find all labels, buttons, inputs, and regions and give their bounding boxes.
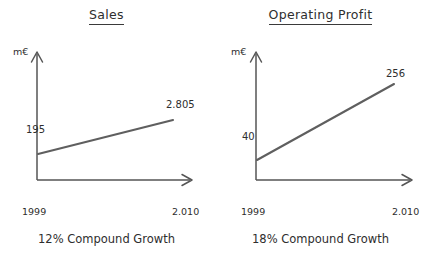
start-value-label-operating-profit: 40 (242, 131, 255, 142)
x-tick-label-start-operating-profit: 1999 (241, 206, 265, 217)
y-axis-unit-sales: m€ (13, 46, 28, 57)
x-tick-label-end-sales: 2.010 (172, 206, 199, 217)
chart-panel-sales: Sales m€ 195 2.805 1999 2.010 12% Compou… (0, 0, 213, 264)
end-value-label-sales: 2.805 (166, 99, 195, 110)
figure-canvas: Sales m€ 195 2.805 1999 2.010 12% Compou… (0, 0, 427, 264)
x-tick-label-start-sales: 1999 (22, 206, 46, 217)
data-line-operating-profit (257, 84, 394, 160)
chart-panel-operating-profit: Operating Profit m€ 40 256 1999 2.010 18… (214, 0, 427, 264)
start-value-label-sales: 195 (26, 124, 45, 135)
chart-title-operating-profit-text: Operating Profit (269, 7, 373, 25)
end-value-label-operating-profit: 256 (386, 68, 405, 79)
chart-caption-operating-profit: 18% Compound Growth (214, 232, 427, 246)
data-line-sales (38, 120, 173, 154)
chart-caption-sales: 12% Compound Growth (0, 232, 213, 246)
chart-title-operating-profit: Operating Profit (214, 7, 427, 25)
y-axis-unit-operating-profit: m€ (231, 46, 246, 57)
x-tick-label-end-operating-profit: 2.010 (392, 206, 419, 217)
chart-title-sales-text: Sales (89, 7, 124, 25)
chart-title-sales: Sales (0, 7, 213, 25)
